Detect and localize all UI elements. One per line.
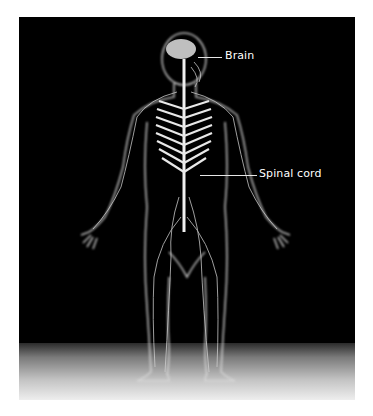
spinal-cord-label: Spinal cord bbox=[259, 167, 321, 180]
nervous-system-illustration: Brain Spinal cord bbox=[19, 17, 355, 400]
spinal-cord-leader-line bbox=[200, 175, 257, 176]
brain-label: Brain bbox=[225, 49, 254, 62]
brain-shape bbox=[166, 39, 196, 59]
human-figure bbox=[19, 17, 355, 400]
brain-leader-line bbox=[198, 57, 222, 58]
